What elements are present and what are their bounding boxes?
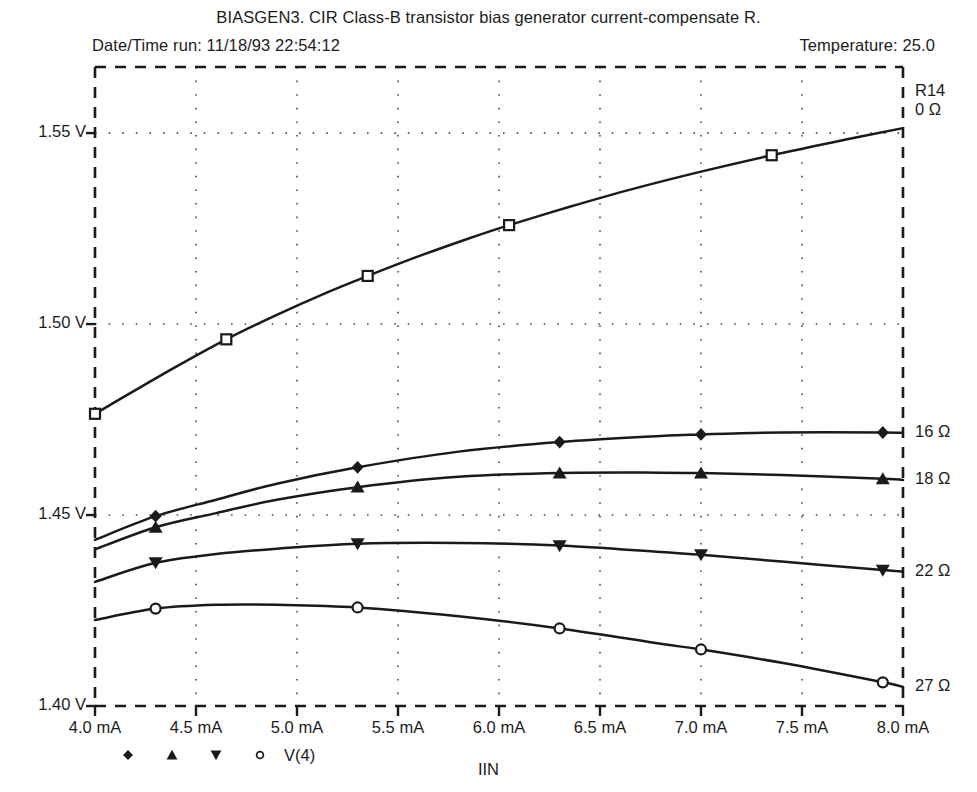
series-value-label: 18 Ω — [915, 469, 977, 488]
series-value-label: 27 Ω — [915, 676, 977, 695]
chart-page: BIASGEN3. CIR Class-B transistor bias ge… — [0, 0, 977, 792]
series-marker-open-square — [221, 334, 231, 344]
series-marker-open-square — [363, 271, 373, 281]
x-axis-tick-label: 4.0 mA — [50, 718, 140, 737]
legend-marker-filled-triangle-up — [150, 747, 194, 763]
legend-marker-filled-diamond — [106, 747, 150, 763]
series-line-0Ω — [95, 128, 903, 414]
x-axis-tick-label: 7.0 mA — [656, 718, 746, 737]
parameter-header: R14 — [915, 81, 977, 100]
legend: V(4) — [106, 744, 315, 766]
y-axis-tick-label: 1.40 V — [0, 695, 86, 714]
plot-canvas — [0, 0, 977, 792]
series-marker-open-circle — [878, 677, 888, 687]
series-marker-filled-diamond — [554, 436, 566, 449]
y-axis-tick-label: 1.55 V — [0, 122, 86, 141]
series-marker-open-square — [767, 150, 777, 160]
series-marker-open-square — [504, 220, 514, 230]
x-axis-tick-label: 7.5 mA — [757, 718, 847, 737]
x-axis-tick-label: 5.5 mA — [353, 718, 443, 737]
series-value-label: 22 Ω — [915, 561, 977, 580]
series-line-16Ω — [95, 432, 903, 539]
series-line-22Ω — [95, 543, 903, 582]
x-axis-tick-label: 4.5 mA — [151, 718, 241, 737]
x-axis-tick-label: 5.0 mA — [252, 718, 342, 737]
series-value-label: 16 Ω — [915, 422, 977, 441]
y-axis-tick-label: 1.50 V — [0, 313, 86, 332]
series-line-27Ω — [95, 604, 903, 687]
series-marker-open-circle — [555, 623, 565, 633]
series-value-label: 0 Ω — [915, 100, 977, 119]
series-marker-open-circle — [353, 602, 363, 612]
series-marker-filled-diamond — [352, 461, 364, 474]
y-axis-tick-label: 1.45 V — [0, 504, 86, 523]
x-axis-tick-label: 6.0 mA — [454, 718, 544, 737]
series-marker-open-circle — [151, 604, 161, 614]
x-axis-tick-label: 6.5 mA — [555, 718, 645, 737]
legend-marker-open-circle — [238, 747, 282, 763]
series-marker-open-circle — [696, 644, 706, 654]
legend-label: V(4) — [284, 746, 315, 765]
series-marker-filled-diamond — [877, 426, 889, 439]
series-line-18Ω — [95, 473, 903, 550]
series-marker-open-square — [90, 409, 100, 419]
x-axis-tick-label: 8.0 mA — [858, 718, 948, 737]
series-marker-filled-diamond — [695, 428, 707, 441]
legend-marker-filled-triangle-down — [194, 747, 238, 763]
